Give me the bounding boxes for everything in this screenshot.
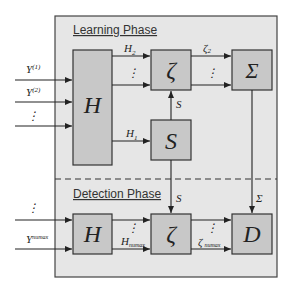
d-label: D bbox=[242, 221, 260, 247]
learning-h-label: H bbox=[83, 92, 103, 118]
s-label: S bbox=[165, 128, 177, 154]
edge-sigma-label: Σ bbox=[255, 192, 263, 204]
input-det-dots: ⋮ bbox=[27, 201, 39, 215]
edge-h-dots: ⋮ bbox=[127, 66, 139, 80]
input-label-ynumax: Ynumax bbox=[26, 233, 48, 245]
input-label-y2: Y(2) bbox=[26, 86, 41, 98]
edge-zeta-dots: ⋮ bbox=[206, 66, 218, 80]
edge-s-label-up: S bbox=[176, 98, 182, 110]
detection-h-label: H bbox=[83, 221, 103, 247]
edge-s-label-down: S bbox=[176, 192, 182, 204]
learning-phase-title: Learning Phase bbox=[73, 23, 157, 37]
edge-det-zeta-dots: ⋮ bbox=[206, 221, 218, 235]
edge-det-h-dots: ⋮ bbox=[127, 221, 139, 235]
input-dots: ⋮ bbox=[27, 109, 39, 123]
detection-phase-title: Detection Phase bbox=[73, 187, 161, 201]
sigma-label: Σ bbox=[244, 58, 258, 83]
input-label-y1: Y(1) bbox=[26, 63, 41, 75]
system-diagram: Learning Phase Detection Phase H Y(1) Y(… bbox=[0, 0, 300, 291]
